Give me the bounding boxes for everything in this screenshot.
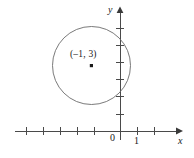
y-axis-arrowhead [117,7,124,14]
x-tick-label-one: 1 [134,136,139,146]
coordinate-plane-svg [0,0,194,158]
origin-tick-label: 0 [110,133,115,143]
circle-diagram-figure: y x 0 1 (–1, 3) [0,0,194,158]
circle-center-label: (–1, 3) [70,50,97,60]
x-axis-arrowhead [176,128,183,135]
y-axis-label: y [108,5,112,15]
x-axis-label: x [178,136,182,146]
center-point-marker [90,64,93,67]
